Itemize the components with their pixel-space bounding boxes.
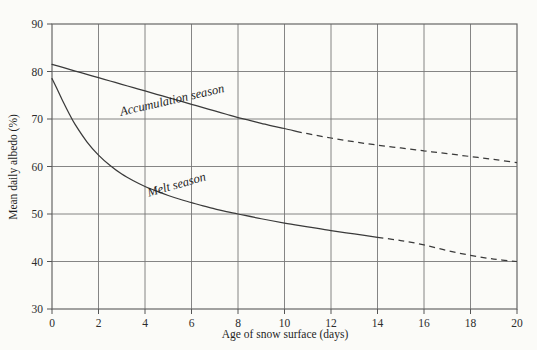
grid-lines: [52, 24, 517, 309]
x-tick-label: 6: [189, 317, 195, 329]
series-annotations: Accumulation seasonMelt season: [118, 81, 226, 200]
y-tick-label: 90: [32, 18, 44, 30]
y-axis-tick-labels: 30405060708090: [32, 18, 44, 315]
y-tick-label: 40: [32, 256, 44, 268]
x-tick-label: 14: [372, 317, 384, 329]
y-tick-label: 50: [32, 208, 44, 220]
curve-dashed-segment: [296, 131, 517, 162]
y-tick-label: 80: [32, 66, 44, 78]
x-tick-label: 0: [49, 317, 55, 329]
x-axis-title: Age of snow surface (days): [222, 328, 349, 341]
x-tick-label: 4: [142, 317, 148, 329]
x-tick-label: 16: [418, 317, 430, 329]
x-tick-label: 2: [96, 317, 102, 329]
chart-canvas: 02468101214161820 30405060708090 Accumul…: [0, 0, 537, 350]
series-annotation-label: Melt season: [145, 170, 208, 200]
y-tick-label: 70: [32, 113, 44, 125]
curve-solid-segment: [52, 79, 378, 238]
y-tick-label: 60: [32, 161, 44, 173]
series-annotation-label: Accumulation season: [118, 81, 226, 119]
curve-dashed-segment: [378, 237, 518, 261]
y-tick-label: 30: [32, 303, 44, 315]
albedo-chart-figure: 02468101214161820 30405060708090 Accumul…: [0, 0, 537, 350]
y-axis-title: Mean daily albedo (%): [7, 114, 20, 220]
x-tick-label: 20: [511, 317, 523, 329]
x-tick-label: 18: [465, 317, 477, 329]
axis-tick-marks: [47, 24, 517, 314]
